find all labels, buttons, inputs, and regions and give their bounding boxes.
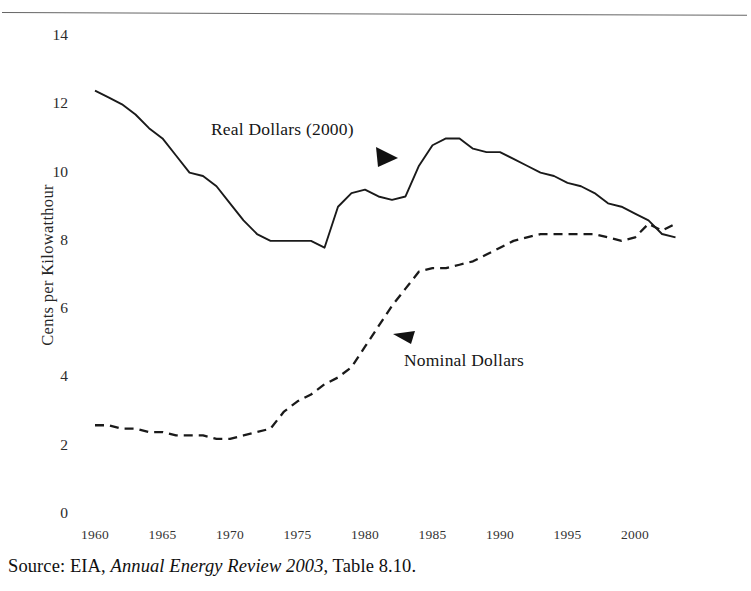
series-line-nominal	[95, 224, 676, 439]
annotation-arrow-nominal-dollars	[393, 331, 415, 344]
y-axis-tick-label: 12	[28, 94, 68, 112]
y-axis-tick-label: 14	[28, 26, 68, 44]
source-prefix: Source: EIA,	[8, 556, 106, 576]
x-axis-tick-label: 1960	[65, 527, 125, 543]
series-line-real	[95, 91, 676, 248]
chart-figure: Cents per Kilowatthour Real Dollars (200…	[0, 0, 751, 550]
y-axis-tick-label: 8	[28, 231, 68, 249]
x-axis-tick-label: 1970	[200, 527, 260, 543]
x-axis-tick-label: 1995	[538, 527, 598, 543]
y-axis-tick-label: 10	[28, 163, 68, 181]
source-suffix: , Table 8.10.	[324, 556, 417, 576]
chart-plot-area	[0, 0, 751, 550]
x-axis-tick-label: 1985	[403, 527, 463, 543]
x-axis-tick-label: 2000	[605, 527, 665, 543]
y-axis-tick-label: 6	[28, 299, 68, 317]
series-label-nominal-dollars: Nominal Dollars	[404, 350, 524, 371]
y-axis-tick-label: 4	[28, 367, 68, 385]
source-caption: Source: EIA, Annual Energy Review 2003, …	[8, 556, 416, 577]
y-axis-tick-label: 2	[28, 436, 68, 454]
x-axis-tick-label: 1990	[470, 527, 530, 543]
series-label-real-dollars: Real Dollars (2000)	[211, 119, 354, 140]
y-axis-tick-label: 0	[28, 504, 68, 522]
x-axis-tick-label: 1975	[268, 527, 328, 543]
x-axis-tick-label: 1965	[133, 527, 193, 543]
annotation-arrow-real-dollars	[376, 147, 398, 167]
source-publication-title: Annual Energy Review 2003	[111, 556, 324, 576]
x-axis-tick-label: 1980	[335, 527, 395, 543]
